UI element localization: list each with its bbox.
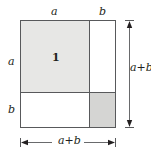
cell-1-a-squared: 1 bbox=[21, 21, 90, 93]
cell-2-ab: 2 bbox=[90, 21, 115, 93]
cell-4-b-squared: 4 bbox=[90, 93, 115, 127]
left-label-b: b bbox=[8, 104, 15, 115]
binomial-square-figure: a b a b 1 2 3 4 a+b bbox=[0, 0, 151, 155]
bottom-dimension-label: a+b bbox=[58, 135, 81, 146]
cell-3-ab: 3 bbox=[21, 93, 90, 127]
left-label-a: a bbox=[8, 56, 15, 67]
outer-square: 1 2 3 4 bbox=[20, 20, 116, 128]
vertical-dimension-arrow bbox=[124, 20, 135, 128]
top-label-a: a bbox=[51, 6, 58, 17]
top-label-b: b bbox=[99, 6, 106, 17]
right-dimension-label: a+b bbox=[130, 62, 151, 73]
vertical-arrow-icon bbox=[124, 20, 135, 128]
cell-1-label: 1 bbox=[52, 52, 60, 63]
